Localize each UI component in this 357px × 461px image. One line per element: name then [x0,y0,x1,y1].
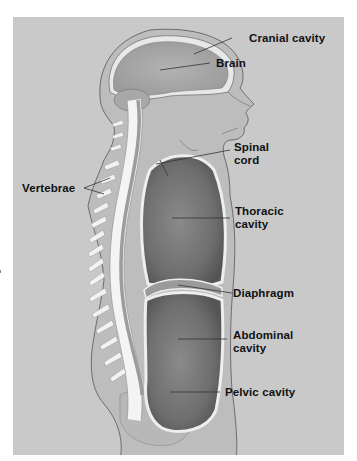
label-brain: Brain [216,57,246,70]
abdominopelvic-cavity-shape [145,293,223,432]
label-pelvic-cavity: Pelvic cavity [225,386,295,399]
label-abdominal-line2: cavity [233,342,266,355]
label-spinal-cord-line2: cord [234,154,259,167]
label-vertebrae: Vertebrae [22,182,75,195]
label-abdominal-line1: Abdominal [233,329,293,342]
label-spinal-cord-line1: Spinal [234,141,269,154]
label-thoracic-line2: cavity [235,218,268,231]
body-cavities-illustration [0,0,357,461]
thoracic-cavity-shape [142,156,226,288]
label-thoracic-line1: Thoracic [235,205,284,218]
label-cranial-cavity: Cranial cavity [249,32,325,45]
edge-mark [0,270,1,273]
label-diaphragm: Diaphragm [233,287,294,300]
